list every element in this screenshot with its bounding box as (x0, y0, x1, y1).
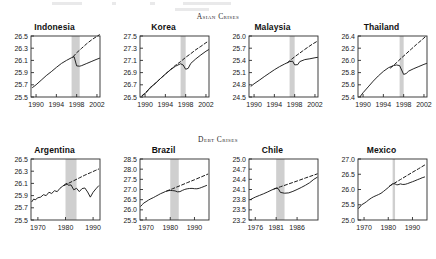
x-axis-tick-label: 1990 (85, 224, 101, 231)
y-axis-tick-label: 26.1 (14, 180, 28, 187)
plot-frame (358, 159, 427, 220)
chart-panel-brazil: Brazil 25.526.026.527.027.528.028.519701… (109, 145, 218, 250)
x-axis-tick-label: 2002 (89, 101, 105, 108)
chart-panel-argentina: Argentina 25.525.725.926.126.326.5197019… (0, 145, 109, 250)
y-axis-tick-label: 26.0 (341, 186, 355, 193)
y-axis-tick-label: 26.4 (341, 33, 355, 40)
x-axis-tick-label: 2002 (307, 101, 323, 108)
x-axis-tick-label: 1990 (355, 101, 371, 108)
y-axis-tick-label: 25.7 (14, 204, 28, 211)
y-axis-tick-label: 26.9 (123, 69, 137, 76)
y-axis-tick-label: 25.5 (341, 201, 355, 208)
trend-line-dashed (390, 36, 426, 68)
y-axis-tick-label: 24.4 (232, 176, 246, 183)
y-axis-tick-label: 27.0 (123, 186, 137, 193)
x-axis-tick-label: 1994 (158, 101, 174, 108)
chart-panel-malaysia: Malaysia 24.524.825.125.425.726.01990199… (218, 22, 327, 127)
y-axis-tick-label: 27.5 (123, 33, 137, 40)
y-axis-tick-label: 25.4 (341, 94, 355, 101)
chart-panel-chile: Chile 23.223.523.824.124.424.725.0197619… (218, 145, 327, 250)
x-axis-tick-label: 1994 (49, 101, 65, 108)
figure-panel-grid: Asian Crises Debt Crises Indonesia 25.52… (0, 0, 436, 259)
y-axis-tick-label: 25.7 (14, 81, 28, 88)
trend-line-dashed (142, 41, 208, 96)
y-axis-tick-label: 23.8 (232, 196, 246, 203)
plot-frame (31, 36, 100, 97)
y-axis-tick-label: 24.7 (232, 166, 246, 173)
actual-line-solid (32, 183, 99, 201)
y-axis-tick-label: 25.5 (14, 94, 28, 101)
y-axis-tick-label: 25.1 (232, 69, 246, 76)
x-axis-tick-label: 1976 (247, 224, 263, 231)
y-axis-tick-label: 28.0 (123, 166, 137, 173)
scan-artifact-top (150, 2, 155, 5)
chart-panel-korea: Korea 26.526.726.927.127.327.51990199419… (109, 22, 218, 127)
scan-artifact-top (183, 2, 231, 5)
y-axis-tick-label: 26.5 (14, 33, 28, 40)
crisis-shaded-band (393, 159, 395, 220)
crisis-shaded-band (290, 36, 295, 97)
y-axis-tick-label: 27.1 (123, 57, 137, 64)
y-axis-tick-label: 26.5 (14, 156, 28, 163)
chart-svg: 24.524.825.125.425.726.01990199419982002 (218, 31, 327, 127)
x-axis-tick-label: 1990 (405, 224, 421, 231)
y-axis-tick-label: 26.0 (341, 57, 355, 64)
y-axis-tick-label: 25.5 (123, 217, 137, 224)
y-axis-tick-label: 26.7 (123, 81, 137, 88)
y-axis-tick-label: 27.0 (341, 156, 355, 163)
y-axis-tick-label: 25.7 (232, 45, 246, 52)
y-axis-tick-label: 25.0 (232, 156, 246, 163)
x-axis-tick-label: 2002 (416, 101, 432, 108)
y-axis-tick-label: 25.9 (14, 69, 28, 76)
y-axis-tick-label: 24.1 (232, 186, 246, 193)
x-axis-tick-label: 1998 (287, 101, 303, 108)
y-axis-tick-label: 27.5 (123, 176, 137, 183)
x-axis-tick-label: 1998 (178, 101, 194, 108)
y-axis-tick-label: 26.3 (14, 168, 28, 175)
x-axis-tick-label: 1990 (187, 224, 203, 231)
actual-line-solid (251, 57, 317, 86)
y-axis-tick-label: 27.3 (123, 45, 137, 52)
x-axis-tick-label: 1994 (267, 101, 283, 108)
chart-svg: 25.525.725.926.126.326.5197019801990 (0, 154, 109, 250)
y-axis-tick-label: 25.0 (341, 217, 355, 224)
y-axis-tick-label: 25.5 (14, 217, 28, 224)
y-axis-tick-label: 25.6 (341, 81, 355, 88)
chart-panel-thailand: Thailand 25.425.625.826.026.226.41990199… (327, 22, 436, 127)
y-axis-tick-label: 26.0 (232, 33, 246, 40)
crisis-shaded-band (181, 36, 186, 97)
chart-svg: 25.525.725.926.126.326.51990199419982002 (0, 31, 109, 127)
actual-line-solid (360, 63, 426, 96)
actual-line-solid (33, 57, 100, 88)
y-axis-tick-label: 25.8 (341, 69, 355, 76)
actual-line-solid (359, 177, 425, 208)
chart-panel-mexico: Mexico 25.025.526.026.527.0197019801990 (327, 145, 436, 250)
y-axis-tick-label: 23.5 (232, 206, 246, 213)
y-axis-tick-label: 28.5 (123, 156, 137, 163)
scan-artifact-top (112, 2, 116, 5)
y-axis-tick-label: 24.5 (232, 94, 246, 101)
y-axis-tick-label: 26.1 (14, 57, 28, 64)
x-axis-tick-label: 1970 (30, 224, 46, 231)
section-header-debt-crises: Debt Crises (0, 135, 436, 144)
x-axis-tick-label: 1980 (162, 224, 178, 231)
actual-line-solid (142, 50, 208, 96)
x-axis-tick-label: 1998 (69, 101, 85, 108)
y-axis-tick-label: 25.9 (14, 192, 28, 199)
section-header-asian-crises: Asian Crises (0, 12, 436, 21)
y-axis-tick-label: 26.5 (341, 171, 355, 178)
chart-svg: 25.526.026.527.027.528.028.5197019801990 (109, 154, 218, 250)
plot-frame (249, 36, 318, 97)
chart-panel-indonesia: Indonesia 25.525.725.926.126.326.5199019… (0, 22, 109, 127)
chart-svg: 26.526.726.927.127.327.51990199419982002 (109, 31, 218, 127)
scan-artifact-top (175, 8, 209, 11)
crisis-shaded-band (276, 159, 284, 220)
x-axis-tick-label: 1998 (396, 101, 412, 108)
chart-svg: 25.425.625.826.026.226.41990199419982002 (327, 31, 436, 127)
x-axis-tick-label: 1981 (268, 224, 284, 231)
x-axis-tick-label: 1986 (289, 224, 305, 231)
x-axis-tick-label: 1970 (356, 224, 372, 231)
x-axis-tick-label: 1980 (380, 224, 396, 231)
y-axis-tick-label: 26.2 (341, 45, 355, 52)
y-axis-tick-label: 25.4 (232, 57, 246, 64)
